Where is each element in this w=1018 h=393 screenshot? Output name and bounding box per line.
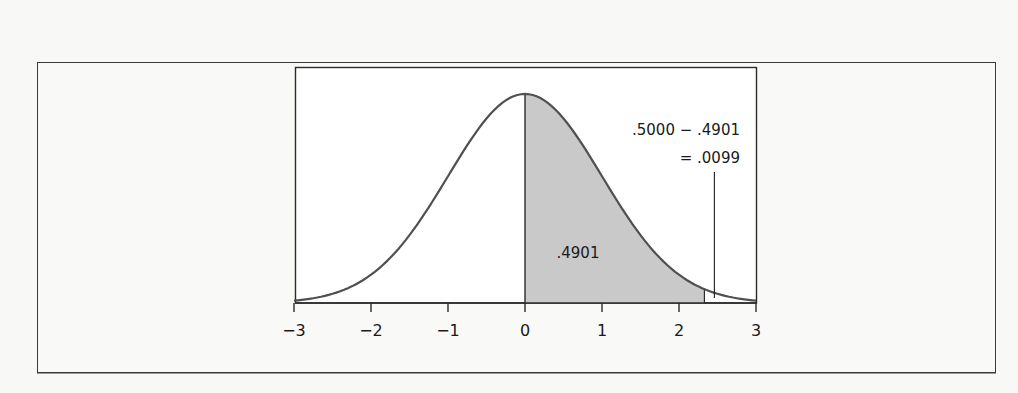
x-tick-label: 0: [520, 321, 530, 340]
x-tick-label: 1: [597, 321, 607, 340]
x-tick-label: 2: [674, 321, 684, 340]
x-tick-label: −3: [282, 321, 306, 340]
x-tick-label: −1: [436, 321, 460, 340]
x-tick-label: 3: [751, 321, 761, 340]
shaded-area-label: .4901: [557, 244, 600, 262]
normal-curve-chart: −3−2−10123 .4901 .5000 − .4901 = .0099: [0, 0, 1018, 393]
x-tick-label: −2: [359, 321, 383, 340]
annotation-line-2: = .0099: [680, 149, 740, 167]
annotation-line-1: .5000 − .4901: [632, 121, 740, 139]
x-axis-ticks: −3−2−10123: [282, 303, 761, 340]
